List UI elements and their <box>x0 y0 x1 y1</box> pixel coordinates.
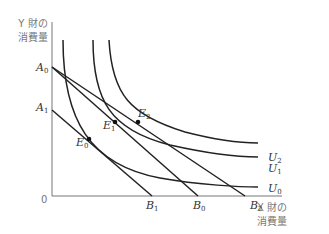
y-label-line1: Y 財の <box>18 17 48 31</box>
y-label-line2: 消費量 <box>18 31 48 45</box>
budget-line-A0B2 <box>52 67 245 196</box>
origin-label: 0 <box>41 193 47 207</box>
indifference-curve-U1 <box>93 40 258 157</box>
label-U0: U0 <box>268 183 282 196</box>
budget-line-A0B0 <box>52 67 198 196</box>
label-E2: E2 <box>138 108 151 121</box>
indifference-curve-diagram <box>0 0 329 234</box>
x-label-line2: 消費量 <box>257 215 287 229</box>
y-axis-label: Y 財の 消費量 <box>18 17 48 45</box>
label-B1: B1 <box>146 200 159 213</box>
label-U1: U1 <box>268 163 282 176</box>
indifference-curve-U2 <box>109 40 258 143</box>
label-E0: E0 <box>76 137 89 150</box>
label-A1: A1 <box>36 102 48 115</box>
label-E1: E1 <box>103 120 116 133</box>
label-A0: A0 <box>36 62 48 75</box>
indifference-curve-U0 <box>63 40 258 187</box>
label-B2: B2 <box>250 200 263 213</box>
label-B0: B0 <box>193 200 206 213</box>
